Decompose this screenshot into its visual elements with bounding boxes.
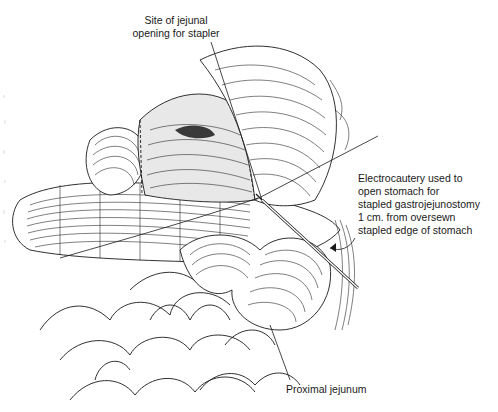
label-line: 1 cm. from oversewn <box>358 211 480 224</box>
label-line: Proximal jejunum <box>286 383 367 396</box>
label-line: stapled gastrojejunostomy <box>358 198 480 211</box>
label-line: open stomach for <box>358 185 480 198</box>
label-proximal-jejunum: Proximal jejunum <box>286 383 367 396</box>
label-electrocautery: Electrocautery used to open stomach for … <box>358 172 480 237</box>
left-edge-bleed <box>4 95 5 243</box>
jejunal-loop <box>180 235 331 330</box>
label-line: stapled edge of stomach <box>358 224 480 237</box>
label-line: Site of jejunal <box>128 14 224 27</box>
label-site-of-jejunal-opening: Site of jejunal opening for stapler <box>128 14 224 40</box>
curved-arrow-icon <box>330 238 355 252</box>
label-line: opening for stapler <box>128 27 224 40</box>
leader-line-proximal <box>270 325 290 380</box>
label-line: Electrocautery used to <box>358 172 480 185</box>
